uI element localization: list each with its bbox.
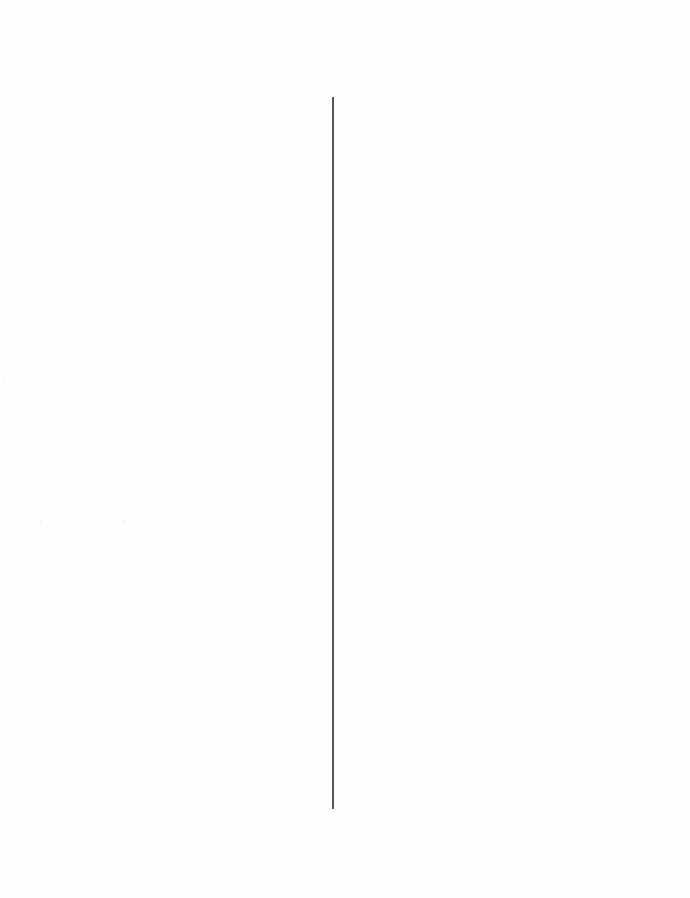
scan-noise-speck bbox=[123, 520, 125, 522]
vertical-rule bbox=[332, 97, 334, 809]
scanned-page bbox=[0, 0, 690, 898]
scan-noise-speck bbox=[4, 378, 6, 380]
scan-noise-speck bbox=[40, 521, 42, 523]
